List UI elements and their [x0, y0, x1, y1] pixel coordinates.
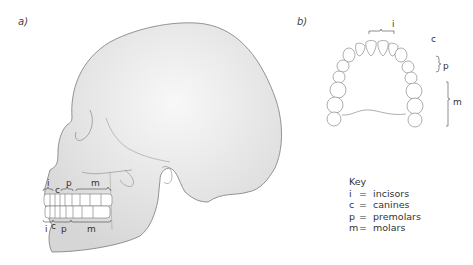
arch-label-p: p: [443, 61, 449, 71]
lower-label-m: m: [87, 224, 96, 234]
upper-label-m: m: [91, 178, 100, 188]
lateral-teeth: [44, 194, 112, 218]
upper-label-i: i: [47, 178, 50, 188]
key-item-incisors: i=incisors: [349, 188, 421, 200]
upper-label-p: p: [66, 178, 72, 188]
arch-label-i: i: [392, 19, 395, 29]
key-title: Key: [349, 176, 421, 188]
dental-arch: [327, 41, 423, 128]
key-item-canines: c=canines: [349, 199, 421, 211]
upper-label-c: c: [55, 185, 60, 195]
key-item-premolars: p=premolars: [349, 211, 421, 223]
arch-label-m: m: [453, 97, 462, 107]
lower-label-p: p: [61, 224, 67, 234]
key-legend: Key i=incisors c=canines p=premolars m=m…: [349, 176, 421, 234]
lower-label-i: i: [45, 224, 48, 234]
key-item-molars: m=molars: [349, 222, 421, 234]
arch-label-c: c: [431, 34, 436, 44]
lower-label-c: c: [51, 221, 56, 231]
